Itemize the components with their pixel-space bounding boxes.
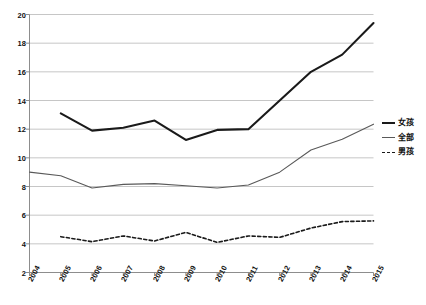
chart-plot-area: [0, 0, 426, 305]
chart-legend: 女孩 全部 男孩: [382, 116, 426, 160]
y-tick-label: 18: [0, 39, 26, 48]
legend-label-girls: 女孩: [398, 119, 414, 127]
y-tick-label: 16: [0, 68, 26, 77]
legend-label-total: 全部: [398, 134, 414, 142]
legend-item-boys: 男孩: [382, 145, 426, 160]
legend-item-girls: 女孩: [382, 116, 426, 131]
y-tick-label: 6: [0, 211, 26, 220]
y-tick-label: 20: [0, 11, 26, 20]
y-tick-label: 2: [0, 269, 26, 278]
y-tick-label: 8: [0, 183, 26, 192]
y-tick-label: 14: [0, 97, 26, 106]
y-tick-label: 12: [0, 125, 26, 134]
legend-line-total-icon: [382, 137, 395, 138]
y-tick-label: 4: [0, 240, 26, 249]
line-chart: 2018161412108642 20042005200620072008200…: [0, 0, 426, 305]
legend-line-boys-icon: [382, 152, 395, 153]
series-line-girls: [61, 23, 374, 140]
y-tick-label: 10: [0, 154, 26, 163]
series-line-total: [30, 124, 374, 188]
legend-item-total: 全部: [382, 131, 426, 146]
series-line-boys: [61, 221, 374, 243]
legend-line-girls-icon: [382, 122, 395, 124]
legend-label-boys: 男孩: [398, 148, 414, 156]
